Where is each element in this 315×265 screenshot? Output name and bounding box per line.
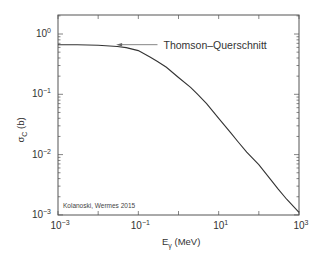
y-tick-label: 100 bbox=[36, 27, 51, 39]
thomson-annotation: Thomson–Querschnitt bbox=[163, 39, 266, 51]
y-tick-label: 10−2 bbox=[32, 148, 51, 160]
x-tick-label: 103 bbox=[293, 219, 308, 231]
compton-cross-section-chart: Thomson–Querschnitt Kolanoski, Wermes 20… bbox=[0, 0, 315, 265]
y-axis-label: σC (b) bbox=[15, 117, 28, 142]
x-tick-label: 10−3 bbox=[50, 219, 69, 231]
x-axis-label: Eγ (MeV) bbox=[162, 236, 200, 250]
x-tick-label: 10−1 bbox=[131, 219, 150, 231]
y-tick-label: 10−1 bbox=[32, 87, 51, 99]
y-tick-label: 10−3 bbox=[32, 208, 51, 220]
cross-section-curve bbox=[58, 45, 299, 213]
y-tick-labels: 10010−110−210−3 bbox=[32, 27, 51, 220]
x-tick-labels: 10−310−1101103 bbox=[50, 219, 308, 231]
x-tick-label: 101 bbox=[213, 219, 228, 231]
credit-text: Kolanoski, Wermes 2015 bbox=[63, 202, 136, 209]
